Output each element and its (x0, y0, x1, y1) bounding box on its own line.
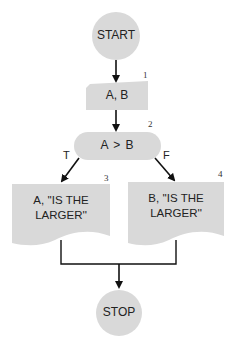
output-right-line2: LARGER'' (128, 207, 224, 220)
false-branch-label: F (163, 149, 170, 161)
true-branch-label: T (63, 149, 70, 161)
arrow-true-branch (62, 158, 79, 181)
output-left-line1: A, ''IS THE (12, 194, 110, 207)
step-number-4: 4 (218, 169, 223, 179)
decision-label: A > B (74, 139, 161, 153)
step-number-2: 2 (148, 119, 153, 129)
stop-label: STOP (96, 306, 142, 320)
step-number-1: 1 (143, 70, 148, 80)
output-left-line2: LARGER'' (12, 209, 110, 222)
arrow-false-branch (155, 158, 174, 180)
output-right-line1: B, ''IS THE (128, 192, 224, 205)
step-number-3: 3 (104, 173, 109, 183)
start-label: START (92, 29, 140, 43)
flowchart-canvas (0, 0, 239, 343)
input-label: A, B (86, 89, 148, 103)
